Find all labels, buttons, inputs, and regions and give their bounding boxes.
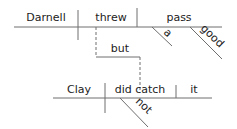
clause1-subject: Darnell bbox=[26, 11, 65, 24]
clause1-object: pass bbox=[166, 11, 191, 24]
sentence-diagram: Darnell threw pass a good but Clay did c… bbox=[0, 0, 237, 129]
modifier-good: good bbox=[198, 22, 227, 50]
clause2-object: it bbox=[190, 83, 198, 96]
clause2-verb: did catch bbox=[115, 83, 166, 96]
clause1-verb: threw bbox=[95, 11, 126, 24]
conjunction: but bbox=[111, 42, 130, 55]
clause2-subject: Clay bbox=[67, 83, 91, 96]
